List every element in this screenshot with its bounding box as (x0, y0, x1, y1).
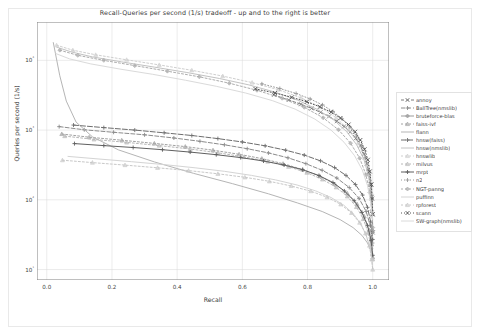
legend-item[interactable]: scann (400, 209, 469, 217)
legend-label: scann (416, 209, 431, 217)
data-point-marker (263, 144, 267, 148)
data-point-marker (366, 158, 370, 162)
data-point-marker (222, 143, 226, 147)
data-point-marker (160, 148, 164, 152)
y-tick-label: 10¹ (25, 267, 34, 273)
x-tick-label: 0.2 (108, 284, 117, 290)
legend-item[interactable]: BallTree(nmslib) (400, 104, 469, 112)
series-mrpt (72, 142, 374, 258)
data-point-marker (336, 128, 340, 132)
data-point-marker (406, 114, 410, 118)
legend-marker-icon (400, 168, 415, 176)
data-point-marker (162, 131, 166, 135)
data-point-marker (365, 205, 369, 209)
y-tick-label: 10² (25, 197, 34, 203)
data-point-marker (131, 146, 135, 150)
x-tick-label: 0.4 (173, 284, 182, 290)
plot-svg (37, 22, 389, 280)
legend-item[interactable]: hnsw(nmslib) (400, 144, 469, 152)
legend-label: flann (416, 128, 429, 136)
data-point-marker (406, 138, 410, 142)
data-point-marker (227, 81, 231, 85)
data-point-marker (406, 170, 410, 174)
series-line (62, 160, 372, 269)
legend-marker-icon (400, 128, 415, 136)
legend-label: n2 (416, 176, 422, 184)
legend-marker-icon (400, 185, 415, 193)
legend-marker-icon (400, 160, 415, 168)
data-point-marker (319, 159, 323, 163)
legend-label: mrpt (416, 168, 428, 176)
data-point-marker (302, 153, 306, 157)
data-point-marker (320, 168, 324, 172)
legend-item[interactable]: puffinn (400, 193, 469, 201)
legend-item[interactable]: SW-graph(nmslib) (400, 217, 469, 225)
legend-marker-icon (400, 96, 415, 104)
legend-label: NGT-panng (416, 185, 444, 193)
legend-label: SW-graph(nmslib) (416, 217, 462, 225)
legend-item[interactable]: mrpt (400, 168, 469, 176)
data-point-marker (72, 142, 76, 146)
legend-marker-icon (400, 136, 415, 144)
data-point-marker (406, 187, 410, 191)
data-point-marker (245, 147, 249, 151)
data-point-marker (266, 151, 270, 155)
x-tick-label: 0.6 (238, 284, 247, 290)
legend-item[interactable]: n2 (400, 176, 469, 184)
x-tick-label: 1.0 (368, 284, 377, 290)
legend-item[interactable]: bruteforce-blas (400, 112, 469, 120)
legend-label: rpforest (416, 201, 436, 209)
legend-item[interactable]: faiss-ivf (400, 120, 469, 128)
legend-item[interactable]: flann (400, 128, 469, 136)
legend-label: BallTree(nmslib) (416, 104, 457, 112)
legend-label: hnsw(faiss) (416, 136, 445, 144)
x-axis-ticks: 0.00.20.40.60.81.0 (37, 284, 389, 296)
y-tick-label: 10⁴ (25, 57, 34, 63)
legend-label: faiss-ivf (416, 120, 436, 128)
data-point-marker (294, 91, 298, 95)
data-point-marker (358, 138, 362, 142)
legend-label: milvus (416, 160, 433, 168)
x-tick-label: 0.0 (42, 284, 51, 290)
series-scann (253, 87, 374, 216)
legend-item[interactable]: annoy (400, 96, 469, 104)
series-hnsw-nmslib- (57, 47, 373, 214)
y-axis-ticks: 10⁴10³10²10¹ (0, 22, 34, 280)
legend-marker-icon (400, 176, 415, 184)
chart-title: Recall-Queries per second (1/s) tradeoff… (40, 9, 390, 17)
data-point-marker (240, 140, 244, 144)
series-hnsw-faiss- (72, 123, 375, 241)
legend-item[interactable]: milvus (400, 160, 469, 168)
data-point-marker (57, 125, 61, 129)
legend-marker-icon (400, 120, 415, 128)
data-point-marker (198, 139, 202, 143)
legend-marker-icon (400, 144, 415, 152)
data-point-marker (72, 123, 76, 127)
data-point-marker (286, 156, 290, 160)
data-point-marker (143, 133, 147, 137)
legend[interactable]: annoyBallTree(nmslib)bruteforce-blasfais… (396, 92, 472, 232)
legend-marker-icon (400, 201, 415, 209)
legend-item[interactable]: rpforest (400, 201, 469, 209)
data-point-marker (216, 137, 220, 141)
legend-marker-icon (400, 152, 415, 160)
data-point-marker (284, 148, 288, 152)
series-line (57, 47, 373, 214)
data-point-marker (364, 209, 368, 213)
legend-label: annoy (416, 96, 432, 104)
y-tick-label: 10³ (25, 127, 34, 133)
x-tick-label: 0.8 (303, 284, 312, 290)
data-point-marker (133, 128, 137, 132)
legend-marker-icon (400, 104, 415, 112)
data-point-marker (329, 110, 333, 114)
data-point-marker (406, 178, 410, 182)
legend-label: hnsw(nmslib) (416, 144, 450, 152)
legend-item[interactable]: NGT-panng (400, 185, 469, 193)
data-point-marker (172, 136, 176, 140)
data-point-marker (102, 126, 106, 130)
legend-item[interactable]: hnswlib (400, 152, 469, 160)
plot-area (37, 22, 389, 280)
legend-label: puffinn (416, 193, 434, 201)
x-axis-label: Recall (37, 296, 389, 303)
legend-item[interactable]: hnsw(faiss) (400, 136, 469, 144)
